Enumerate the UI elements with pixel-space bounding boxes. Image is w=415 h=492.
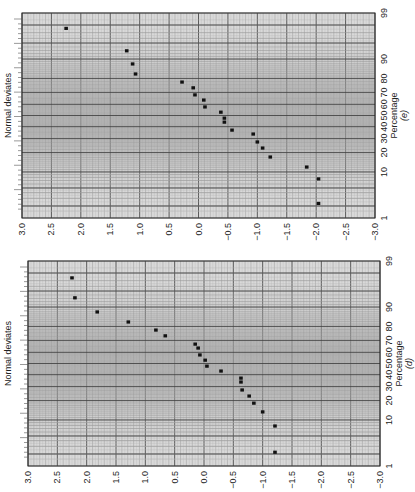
percentage-tick-label: 80 — [379, 73, 389, 83]
deviate-tick-label: 0.5 — [170, 471, 180, 484]
deviate-tick-label: 2.5 — [52, 471, 62, 484]
deviate-tick-label: −3.0 — [370, 223, 380, 241]
percentage-tick-label: 60 — [384, 347, 394, 357]
data-point — [203, 105, 207, 108]
data-point — [193, 93, 197, 96]
data-point — [125, 49, 129, 52]
data-point — [64, 27, 68, 30]
data-point — [239, 377, 243, 380]
data-point — [268, 155, 272, 158]
data-point — [134, 72, 138, 75]
deviate-tick-label: 1.5 — [105, 223, 115, 236]
percentage-tick-label: 50 — [379, 110, 389, 120]
data-point — [252, 402, 256, 405]
deviate-tick-label: 2.0 — [82, 471, 92, 484]
deviate-tick-label: 1.0 — [135, 223, 145, 236]
data-point — [261, 410, 265, 413]
deviates-axis-title: Normal deviates — [3, 320, 13, 386]
data-point — [95, 310, 99, 313]
data-point — [273, 424, 277, 427]
data-point — [154, 328, 158, 331]
probability-plots-figure: 3.02.52.01.51.00.50.0−0.5−1.0−1.5−2.0−2.… — [0, 0, 415, 492]
data-point — [317, 177, 321, 180]
deviate-tick-label: −1.5 — [282, 223, 292, 241]
deviate-tick-label: −2.5 — [346, 471, 356, 489]
percentage-tick-label: 40 — [384, 370, 394, 380]
deviate-tick-label: −3.0 — [375, 471, 385, 489]
deviate-tick-label: −1.0 — [252, 223, 262, 241]
data-point — [273, 451, 277, 454]
percentage-tick-label: 70 — [379, 87, 389, 97]
percentage-tick-label: 60 — [379, 99, 389, 109]
deviate-tick-label: −1.0 — [258, 471, 268, 489]
deviate-tick-label: 2.0 — [76, 223, 86, 236]
data-point — [73, 296, 77, 299]
data-point — [131, 62, 135, 65]
deviate-tick-label: 3.0 — [17, 223, 27, 236]
data-point — [223, 121, 227, 124]
data-point — [163, 334, 167, 337]
data-point — [193, 343, 197, 346]
panel-e-probability-plot: 3.02.52.01.51.00.50.0−0.5−1.0−1.5−2.0−2.… — [3, 8, 409, 241]
data-point — [240, 388, 244, 391]
percentage-axis-title: Percentage — [389, 92, 399, 138]
percentage-tick-label: 90 — [384, 302, 394, 312]
data-point — [261, 146, 265, 149]
data-point — [191, 86, 195, 89]
deviate-tick-label: −2.5 — [341, 223, 351, 241]
data-point — [247, 394, 251, 397]
percentage-tick-label: 99 — [379, 8, 389, 18]
data-point — [205, 365, 209, 368]
percentage-tick-label: 90 — [379, 54, 389, 64]
deviate-tick-label: −2.0 — [311, 223, 321, 241]
deviate-tick-label: 3.0 — [23, 471, 33, 484]
deviate-tick-label: −2.0 — [316, 471, 326, 489]
data-point — [198, 353, 202, 356]
panel-label: (e) — [399, 110, 409, 121]
deviate-tick-label: 1.0 — [140, 471, 150, 484]
panel-label: (d) — [404, 358, 414, 369]
data-point — [317, 202, 321, 205]
percentage-axis-title: Percentage — [394, 340, 404, 386]
data-point — [230, 129, 234, 132]
percentage-tick-label: 70 — [384, 335, 394, 345]
deviates-axis-title: Normal deviates — [3, 72, 13, 138]
percentage-tick-label: 20 — [384, 396, 394, 406]
deviate-tick-label: 0.5 — [164, 223, 174, 236]
percentage-tick-label: 10 — [384, 415, 394, 425]
percentage-tick-label: 1 — [384, 463, 394, 468]
percentage-tick-label: 40 — [379, 122, 389, 132]
percentage-tick-label: 30 — [384, 382, 394, 392]
data-point — [127, 320, 131, 323]
percentage-tick-label: 80 — [384, 321, 394, 331]
percentage-tick-label: 1 — [379, 215, 389, 220]
percentage-tick-label: 10 — [379, 167, 389, 177]
percentage-tick-label: 30 — [379, 134, 389, 144]
percentage-tick-label: 50 — [384, 358, 394, 368]
percentage-tick-label: 99 — [384, 256, 394, 266]
data-point — [203, 359, 207, 362]
deviate-tick-label: 0.0 — [199, 471, 209, 484]
data-point — [256, 140, 260, 143]
deviate-tick-label: −0.5 — [228, 471, 238, 489]
deviate-tick-label: −1.5 — [287, 471, 297, 489]
data-point — [305, 165, 309, 168]
data-point — [251, 132, 255, 135]
data-point — [219, 111, 223, 114]
deviate-tick-label: −0.5 — [223, 223, 233, 241]
data-point — [223, 117, 227, 120]
deviate-tick-label: 1.5 — [111, 471, 121, 484]
data-point — [180, 80, 184, 83]
data-point — [196, 346, 200, 349]
data-point — [219, 369, 223, 372]
panel-d-probability-plot: 3.02.52.01.51.00.50.0−0.5−1.0−1.5−2.0−2.… — [3, 256, 414, 489]
deviate-tick-label: 2.5 — [46, 223, 56, 236]
data-point — [202, 98, 206, 101]
percentage-tick-label: 20 — [379, 148, 389, 158]
deviate-tick-label: 0.0 — [194, 223, 204, 236]
data-point — [239, 380, 243, 383]
data-point — [70, 276, 74, 279]
